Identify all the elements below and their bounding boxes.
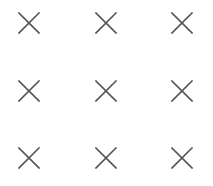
close-button-r1-c2[interactable] [171,80,193,102]
close-icon [171,12,193,34]
close-icon [18,12,40,34]
close-button-r0-c1[interactable] [95,12,117,34]
close-icon [171,147,193,169]
close-icon [95,147,117,169]
close-icon [18,80,40,102]
close-button-r2-c2[interactable] [171,147,193,169]
close-button-r2-c0[interactable] [18,147,40,169]
close-icon [171,80,193,102]
close-button-r1-c0[interactable] [18,80,40,102]
close-button-r0-c0[interactable] [18,12,40,34]
close-button-r0-c2[interactable] [171,12,193,34]
close-icon [18,147,40,169]
close-icon-grid [0,0,213,186]
close-button-r1-c1[interactable] [95,80,117,102]
close-button-r2-c1[interactable] [95,147,117,169]
close-icon [95,80,117,102]
close-icon [95,12,117,34]
